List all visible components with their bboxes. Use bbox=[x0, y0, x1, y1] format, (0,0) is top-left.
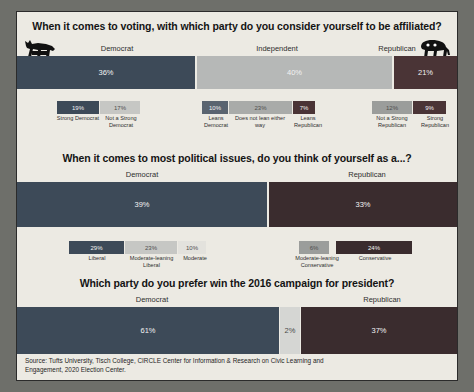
category-label-republican-3: Republican bbox=[322, 295, 442, 304]
sub-segment-liberal: 29% bbox=[69, 241, 124, 254]
sub-label-conservative: Conservative bbox=[347, 255, 403, 262]
category-label-democrat: Democrat bbox=[57, 44, 177, 53]
sub-label-not-strong-democrat: Not a Strong Democrat bbox=[99, 115, 143, 128]
sub-bars-affiliation: 19% 17% 10% 23% 7% 12% 9% bbox=[17, 101, 457, 114]
bar-segment-neither-3: 2% bbox=[280, 307, 300, 354]
sub-segment-strong-democrat: 19% bbox=[57, 101, 99, 114]
sub-label-leans-republican: Leans Republican bbox=[289, 115, 327, 128]
category-label-independent: Independent bbox=[217, 44, 337, 53]
sub-label-not-strong-republican: Not a Strong Republican bbox=[369, 115, 415, 128]
infographic-card: When it comes to voting, with which part… bbox=[16, 11, 458, 381]
category-label-democrat-2: Democrat bbox=[82, 170, 202, 179]
source-note: Source: Tufts University, Tisch College,… bbox=[25, 356, 355, 374]
bar-segment-republican-3: 37% bbox=[301, 307, 457, 354]
sub-label-moderate-leaning-liberal: Moderate-leaning Liberal bbox=[125, 255, 178, 268]
sub-segment-conservative: 24% bbox=[336, 241, 412, 254]
bar-segment-democrat-2: 39% bbox=[17, 182, 267, 227]
chart-title-political-issues: When it comes to most political issues, … bbox=[17, 152, 457, 164]
stacked-bar-political-issues: 39% 33% bbox=[17, 182, 457, 227]
category-labels-2016-campaign: Democrat Republican bbox=[17, 295, 457, 306]
sub-segment-moderate-leaning-liberal: 23% bbox=[125, 241, 177, 254]
sub-segment-strong-republican: 9% bbox=[413, 101, 446, 114]
sub-segment-moderate-leaning-conservative: 6% bbox=[299, 241, 329, 254]
sub-segment-moderate: 10% bbox=[178, 241, 206, 254]
sub-label-does-not-lean: Does not lean either way bbox=[231, 115, 289, 128]
sub-label-moderate: Moderate bbox=[179, 255, 211, 262]
chart-panel-political-issues: When it comes to most political issues, … bbox=[17, 152, 457, 272]
chart-panel-2016-campaign: Which party do you prefer win the 2016 c… bbox=[17, 277, 457, 354]
bar-segment-republican-2: 33% bbox=[269, 182, 457, 227]
category-label-republican-2: Republican bbox=[307, 170, 427, 179]
chart-panel-affiliation: When it comes to voting, with which part… bbox=[17, 20, 457, 132]
sub-label-strong-democrat: Strong Democrat bbox=[56, 115, 100, 122]
category-labels-affiliation: Democrat Independent Republican bbox=[17, 44, 457, 55]
sub-labels-affiliation: Strong Democrat Not a Strong Democrat Le… bbox=[17, 114, 457, 132]
stacked-bar-affiliation: 36% 40% 21% bbox=[17, 56, 457, 89]
bar-segment-independent: 40% bbox=[197, 56, 392, 89]
chart-title-affiliation: When it comes to voting, with which part… bbox=[17, 20, 457, 32]
stacked-bar-2016-campaign: 61% 2% 37% bbox=[17, 307, 457, 354]
sub-bars-political-issues: 29% 23% 10% 6% 24% bbox=[17, 241, 457, 254]
category-label-democrat-3: Democrat bbox=[92, 295, 212, 304]
sub-label-strong-republican: Strong Republican bbox=[415, 115, 455, 128]
sub-segment-leans-republican: 7% bbox=[293, 101, 315, 114]
sub-label-moderate-leaning-conservative: Moderate-leaning Conservative bbox=[291, 255, 343, 268]
sub-label-liberal: Liberal bbox=[69, 255, 125, 262]
sub-segment-leans-democrat: 10% bbox=[202, 101, 228, 114]
chart-title-2016-campaign: Which party do you prefer win the 2016 c… bbox=[17, 277, 457, 289]
sub-segment-does-not-lean: 23% bbox=[229, 101, 292, 114]
category-labels-political-issues: Democrat Republican bbox=[17, 170, 457, 181]
category-label-republican: Republican bbox=[347, 44, 447, 53]
sub-labels-political-issues: Liberal Moderate-leaning Liberal Moderat… bbox=[17, 254, 457, 272]
bar-segment-democrat: 36% bbox=[17, 56, 195, 89]
bar-segment-republican: 21% bbox=[394, 56, 457, 89]
sub-segment-not-strong-republican: 12% bbox=[372, 101, 412, 114]
sub-label-leans-democrat: Leans Democrat bbox=[199, 115, 233, 128]
bar-segment-democrat-3: 61% bbox=[17, 307, 279, 354]
sub-segment-not-strong-democrat: 17% bbox=[100, 101, 140, 114]
